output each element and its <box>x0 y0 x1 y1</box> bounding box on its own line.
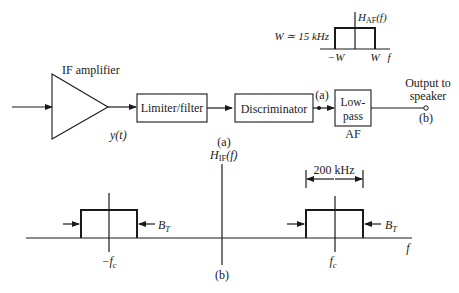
output-label-line2: speaker <box>410 89 447 103</box>
af-title: HAF(f) <box>357 11 387 25</box>
node-a-dot <box>317 106 321 110</box>
fm-receiver-diagram: IF amplifier y(t) Limiter/filter Discrim… <box>0 0 459 293</box>
lowpass-label-line2: pass <box>343 110 363 123</box>
pos-bt-label: BT <box>385 218 398 234</box>
if-title: HIF(f) <box>209 148 238 163</box>
node-b-label: (b) <box>419 111 433 125</box>
lowpass-label-line1: Low- <box>341 96 366 108</box>
span-200khz-label: 200 kHz <box>314 163 355 177</box>
neg-bt-label: BT <box>158 218 171 234</box>
discriminator-label: Discriminator <box>241 102 308 116</box>
if-axis-label-f: f <box>406 241 411 255</box>
af-tick-pos-w: W <box>370 51 380 63</box>
af-bandwidth-label: W ≃ 15 kHz <box>274 30 329 42</box>
node-a-label: (a) <box>315 88 328 102</box>
pos-fc-label: fc <box>329 254 336 270</box>
lowpass-af-label: AF <box>345 127 361 141</box>
block-diagram: IF amplifier y(t) Limiter/filter Discrim… <box>12 63 451 149</box>
if-amplifier-triangle <box>52 74 108 139</box>
limiter-filter-label: Limiter/filter <box>141 101 204 115</box>
neg-fc-label: −fc <box>101 254 116 270</box>
output-terminal <box>424 106 428 110</box>
af-response-plot: HAF(f) W ≃ 15 kHz −W W f <box>274 11 392 63</box>
part-a-caption: (a) <box>217 135 230 149</box>
signal-y-label: y(t) <box>109 128 127 142</box>
part-b-caption: (b) <box>215 268 229 282</box>
if-response-plot: f HIF(f) (b) BT −fc BT fc 200 kHz <box>26 148 412 282</box>
if-amplifier-label: IF amplifier <box>62 63 120 77</box>
output-label-line1: Output to <box>405 76 451 90</box>
af-axis-label-f: f <box>387 51 392 63</box>
af-tick-neg-w: −W <box>328 51 345 63</box>
